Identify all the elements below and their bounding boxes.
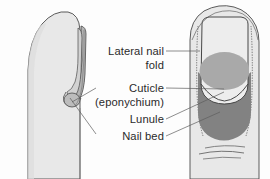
label-cuticle-line1: Cuticle <box>129 82 164 94</box>
diagram-canvas: Lateral nail fold Cuticle (eponychium) L… <box>0 0 270 179</box>
labels-group: Lateral nail fold Cuticle (eponychium) L… <box>95 45 164 142</box>
right-finger-dorsal-view <box>190 6 259 179</box>
label-lateral-nail-fold-line1: Lateral nail <box>108 45 164 57</box>
label-lateral-nail-fold-line2: fold <box>146 59 164 71</box>
lunule-region <box>200 52 250 90</box>
profile-nail-tip <box>64 93 80 107</box>
label-lunule: Lunule <box>130 113 164 125</box>
label-cuticle-line2: (eponychium) <box>95 96 164 108</box>
label-nail-bed: Nail bed <box>122 130 164 142</box>
lunule-clip-group <box>200 52 250 90</box>
left-finger-profile-view <box>28 12 86 179</box>
fingernail-anatomy-diagram: Lateral nail fold Cuticle (eponychium) L… <box>0 0 270 179</box>
